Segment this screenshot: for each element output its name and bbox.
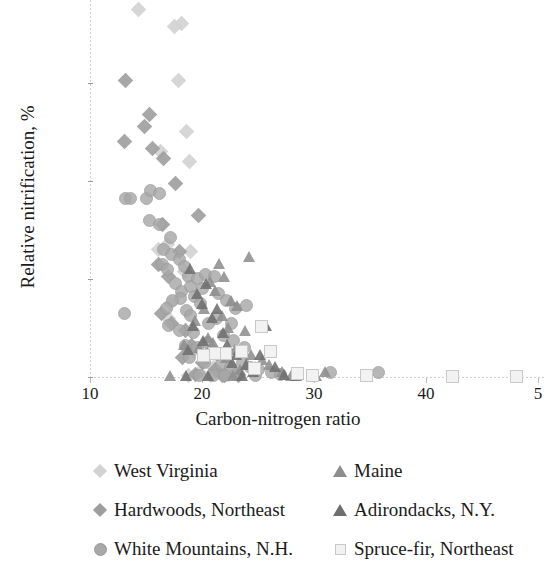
data-point [164,370,176,381]
data-point [244,361,257,374]
data-point [221,367,237,383]
data-point [180,370,192,381]
data-point [240,299,253,312]
data-point [124,192,137,205]
data-point [182,344,194,355]
data-point [183,244,199,260]
legend-diamond-icon [93,464,107,478]
data-point [161,310,177,326]
data-point [446,370,459,383]
data-point [176,264,192,280]
x-tick-mark [538,378,539,383]
legend-item-white-mountains-n-h[interactable]: White Mountains, N.H. [93,530,293,568]
legend-diamond-icon [93,503,107,517]
data-point [187,326,200,339]
data-point [227,334,240,347]
legend-row: West VirginiaMaine [0,452,556,490]
data-point [229,302,242,315]
data-point [143,214,156,227]
data-point [157,243,170,256]
data-point [213,258,225,269]
data-point [194,355,210,371]
x-tick-label: 30 [284,384,344,404]
chart-legend: West VirginiaMaineHardwoods, NortheastAd… [0,452,556,573]
data-point [372,366,385,379]
data-point [180,304,193,317]
data-point [212,347,224,358]
data-point [208,347,221,360]
scatter-chart-figure: 04080120102030405 Relative nitrification… [0,0,556,573]
data-point [193,342,205,353]
data-point [189,315,201,326]
data-point [154,305,170,321]
legend-item-spruce-fir-northeast[interactable]: Spruce-fir, Northeast [333,530,514,568]
data-point [179,124,195,140]
data-point [220,294,233,307]
data-point [117,134,133,150]
data-point [306,369,319,382]
data-point [173,324,186,337]
data-point [119,192,132,205]
data-point [248,362,261,375]
data-point [188,290,201,303]
data-point [274,368,287,381]
legend-triangle-icon [333,503,347,517]
data-point [165,248,178,261]
data-point [183,351,196,364]
data-point [278,369,290,380]
data-point [265,366,278,379]
data-point [211,303,223,314]
data-point [229,344,241,355]
data-point [171,73,187,89]
data-point [175,350,191,366]
data-point [236,356,249,369]
data-point [181,368,197,384]
data-point [164,231,177,244]
legend-item-maine[interactable]: Maine [333,452,403,490]
legend-item-hardwoods-northeast[interactable]: Hardwoods, Northeast [93,491,285,529]
legend-triangle-icon [333,464,347,478]
data-point [151,242,167,258]
data-point [191,341,204,354]
data-point [225,295,237,306]
data-point [184,280,197,293]
data-point [200,278,212,289]
data-point [206,312,218,323]
data-point [202,332,214,343]
data-point [161,263,174,276]
data-point [217,327,229,338]
data-point [164,315,180,331]
data-point [187,367,203,383]
y-tick-mark [88,279,93,280]
data-point [156,258,169,271]
legend-marker-shape [93,503,107,517]
x-axis-title: Carbon-nitrogen ratio [0,408,556,430]
data-point [196,282,209,295]
legend-item-west-virginia[interactable]: West Virginia [93,452,218,490]
legend-item-label: Spruce-fir, Northeast [354,538,514,560]
data-point [231,368,247,384]
data-point [144,184,157,197]
data-point [193,369,206,382]
data-point [185,342,201,358]
legend-item-label: Hardwoods, Northeast [114,499,285,521]
legend-marker-shape [94,543,107,556]
legend-row: White Mountains, N.H.Spruce-fir, Northea… [0,530,556,568]
data-point [256,354,268,365]
data-point [310,370,322,381]
x-tick-label: 10 [60,384,120,404]
y-tick-mark [88,83,93,84]
data-point [197,349,210,362]
data-point [240,359,252,370]
data-point [198,356,211,369]
data-point [226,357,238,368]
data-point [290,370,302,381]
y-axis-title: Relative nitrification, % [17,47,39,347]
x-tick-label: 40 [396,384,456,404]
legend-item-adirondacks-n-y[interactable]: Adirondacks, N.Y. [333,491,495,529]
data-point [207,337,219,348]
data-point [178,260,191,273]
legend-item-label: West Virginia [114,460,218,482]
data-point [219,347,232,360]
data-point [225,317,238,330]
